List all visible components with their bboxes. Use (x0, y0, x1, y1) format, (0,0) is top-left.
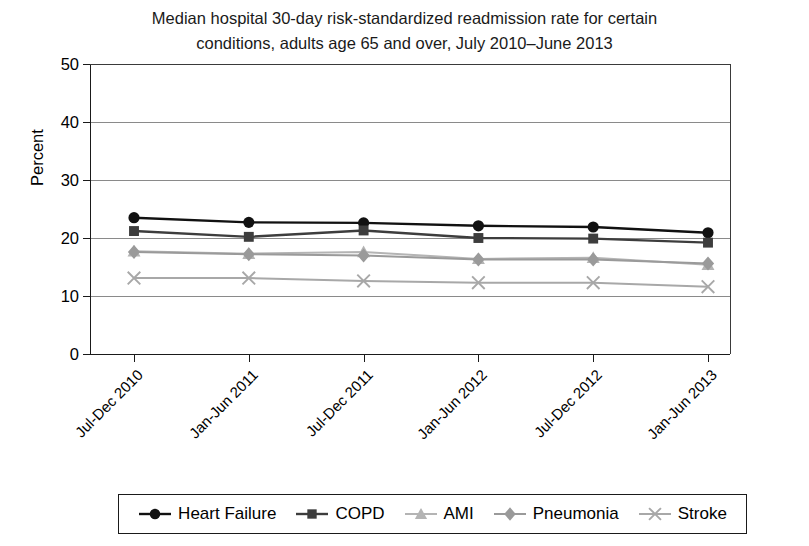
data-point-marker (359, 226, 369, 236)
legend-item-ami[interactable]: AMI (404, 504, 474, 524)
data-point-marker (588, 221, 599, 232)
triangle-marker-icon (404, 506, 438, 522)
data-point-marker (472, 252, 484, 266)
square-marker-icon (295, 506, 329, 522)
data-point-marker (244, 232, 254, 242)
y-axis-tick-label: 0 (70, 346, 79, 363)
legend-item-copd[interactable]: COPD (295, 504, 384, 524)
plot-frame-right (730, 64, 731, 354)
x-axis-tick-mark (249, 354, 250, 362)
x-axis-tick-mark (593, 354, 594, 362)
data-point-marker (243, 247, 255, 261)
data-point-marker (357, 248, 369, 262)
data-point-marker (588, 234, 598, 244)
data-point-marker (702, 227, 713, 238)
series-line (134, 218, 708, 233)
x-axis-tick-mark (364, 354, 365, 362)
chart-container: Median hospital 30-day risk-standardized… (0, 0, 809, 546)
legend-item-stroke[interactable]: Stroke (638, 504, 727, 524)
y-axis-tick-mark (83, 238, 90, 239)
y-axis-tick-mark (83, 64, 90, 65)
y-axis-tick-mark (83, 354, 90, 355)
y-axis-tick-label: 10 (61, 288, 79, 305)
plot-area: Percent 01020304050 Jul-Dec 2010Jan-Jun … (90, 64, 730, 354)
diamond-marker-icon (493, 506, 527, 522)
chart-title-line-1: Median hospital 30-day risk-standardized… (0, 6, 809, 31)
data-point-marker (243, 217, 254, 228)
data-point-marker (473, 220, 484, 231)
data-point-marker (703, 238, 713, 248)
legend-label: COPD (335, 504, 384, 524)
y-axis-tick-mark (83, 296, 90, 297)
series-pneumonia (128, 245, 714, 271)
legend-label: Pneumonia (533, 504, 619, 524)
series-line (134, 252, 708, 264)
data-point-marker (128, 212, 139, 223)
legend-item-heart-failure[interactable]: Heart Failure (138, 504, 276, 524)
x-marker-icon (638, 506, 672, 522)
y-axis-tick-mark (83, 180, 90, 181)
y-axis-tick-mark (83, 122, 90, 123)
series-stroke (128, 272, 715, 293)
chart-title-line-2: conditions, adults age 65 and over, July… (0, 31, 809, 56)
legend-label: Heart Failure (178, 504, 276, 524)
data-point-marker (129, 226, 139, 236)
x-axis-tick-mark (478, 354, 479, 362)
circle-marker-icon (138, 506, 172, 522)
x-axis-tick-mark (708, 354, 709, 362)
legend-item-pneumonia[interactable]: Pneumonia (493, 504, 619, 524)
chart-legend: Heart FailureCOPDAMIPneumoniaStroke (118, 494, 747, 534)
y-axis-label: Percent (28, 129, 47, 186)
y-axis-tick-label: 20 (61, 230, 79, 247)
data-point-marker (128, 245, 140, 259)
y-axis-tick-label: 30 (61, 172, 79, 189)
y-axis-tick-label: 50 (61, 56, 79, 73)
data-point-marker (587, 252, 599, 266)
series-layer (90, 64, 730, 354)
chart-title: Median hospital 30-day risk-standardized… (0, 6, 809, 56)
x-axis-line (90, 354, 730, 355)
x-axis-tick-mark (134, 354, 135, 362)
data-point-marker (473, 233, 483, 243)
legend-label: AMI (444, 504, 474, 524)
legend-label: Stroke (678, 504, 727, 524)
series-line (134, 230, 708, 242)
y-axis-tick-label: 40 (61, 114, 79, 131)
series-line (134, 278, 708, 287)
